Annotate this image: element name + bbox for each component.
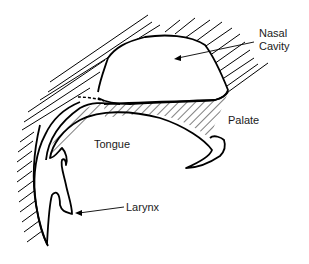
tongue-label: Tongue: [94, 138, 130, 151]
nasal-label-line1: Nasal: [259, 27, 287, 40]
palate-label: Palate: [228, 114, 259, 127]
cavity-label-line2: Cavity: [259, 40, 290, 53]
lower-pharyngeal-hatching: [17, 132, 42, 242]
larynx-label: Larynx: [126, 201, 159, 214]
larynx-arrow: [75, 207, 124, 216]
